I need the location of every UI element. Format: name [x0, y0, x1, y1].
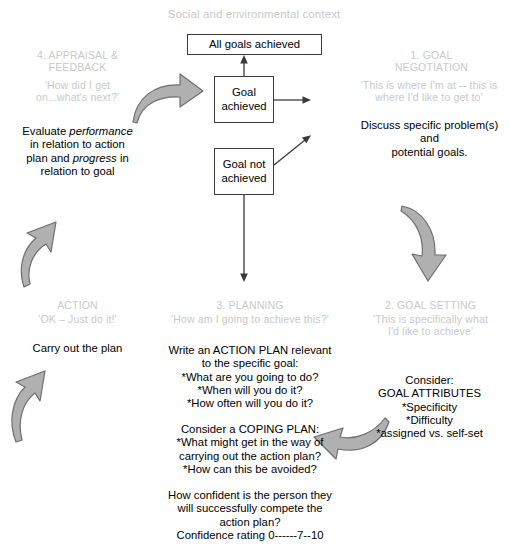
stage-body-goal-setting: Consider: GOAL ATTRIBUTES *Specificity *…: [350, 374, 509, 441]
diagram-canvas: Social and environmental context All goa…: [0, 0, 509, 553]
stage-label-goal-negotiation-heading: 1. GOAL NEGOTIATION: [354, 49, 509, 74]
context-title: Social and environmental context: [129, 8, 379, 22]
stage-label-action-heading: ACTION: [0, 299, 155, 311]
curved-arrow-up-left-icon: [12, 371, 45, 442]
stage-body-planning-coping-plan: Consider a COPING PLAN: *What might get …: [153, 423, 347, 476]
connector-down-icon: [240, 195, 248, 282]
stage-body-planning-action-plan: Write an ACTION PLAN relevant to the spe…: [153, 344, 347, 411]
stage-label-appraisal-heading: 4. APPRAISAL & FEEDBACK: [0, 49, 155, 74]
connector-right-icon: [274, 96, 311, 104]
box-goal-not-achieved: Goal not achieved: [214, 148, 274, 195]
box-all-goals-achieved: All goals achieved: [187, 34, 322, 55]
stage-body-appraisal: Evaluate performance in relation to acti…: [0, 125, 155, 178]
stage-label-goal-setting-heading: 2. GOAL SETTING: [352, 299, 509, 311]
stage-label-goal-negotiation-quote: 'This is where I'm at -- this is where I…: [349, 79, 509, 104]
appraisal-text-italic-progress: progress: [73, 152, 117, 164]
appraisal-text-prefix: Evaluate: [22, 125, 69, 137]
stage-label-planning-heading: 3. PLANNING: [160, 299, 340, 311]
stage-body-goal-negotiation: Discuss specific problem(s) and potentia…: [350, 119, 509, 159]
curved-arrow-up-icon: [21, 222, 56, 287]
stage-body-action: Carry out the plan: [0, 342, 155, 355]
connector-diagonal-up-right-icon: [274, 135, 311, 165]
appraisal-text-italic-performance: performance: [69, 125, 132, 137]
stage-body-planning-confidence: How confident is the person they will su…: [153, 489, 347, 542]
curved-arrow-down-icon: [401, 206, 446, 281]
stage-label-appraisal-quote: 'How did I get on...what's next?': [0, 79, 155, 104]
stage-label-goal-setting-quote: 'This is specifically what I'd like to a…: [352, 313, 509, 338]
connector-up-icon: [240, 55, 248, 76]
stage-label-action-quote: 'OK – Just do it!': [0, 313, 155, 325]
stage-label-planning-quote: 'How am I going to achieve this?': [155, 313, 345, 325]
box-goal-achieved: Goal achieved: [214, 76, 274, 123]
